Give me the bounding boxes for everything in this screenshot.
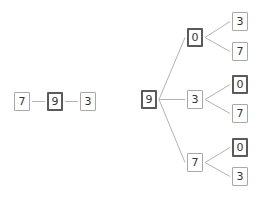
tree-edge-m3-l3a [205, 85, 230, 100]
tree-mid-node-3: 3 [187, 90, 203, 109]
tree-leaf-node-0-b: 7 [232, 42, 248, 61]
chain-node-9: 9 [47, 92, 63, 111]
diagram-canvas: 7 9 3 9 0 3 7 3 7 0 7 0 3 [0, 0, 269, 199]
tree-edge-r9-m0 [159, 38, 185, 100]
tree-edge-r9-m7 [159, 100, 185, 163]
tree-leaf-node-3-a: 0 [232, 75, 248, 94]
tree-mid-node-7: 7 [187, 153, 203, 172]
tree-leaf-node-7-a: 0 [232, 138, 248, 157]
tree-root-node-9: 9 [141, 90, 157, 109]
tree-edge-m7-l7b [205, 163, 230, 177]
tree-mid-node-0: 0 [187, 28, 203, 47]
tree-edge-m3-l3b [205, 100, 230, 114]
tree-edge-m7-l7a [205, 148, 230, 163]
chain-node-7: 7 [14, 92, 30, 111]
tree-leaf-node-7-b: 3 [232, 167, 248, 186]
chain-node-3: 3 [80, 92, 96, 111]
tree-edge-m0-l0a [205, 22, 230, 38]
tree-leaf-node-3-b: 7 [232, 104, 248, 123]
tree-leaf-node-0-a: 3 [232, 12, 248, 31]
edge-layer [0, 0, 269, 199]
tree-edge-m0-l0b [205, 38, 230, 52]
